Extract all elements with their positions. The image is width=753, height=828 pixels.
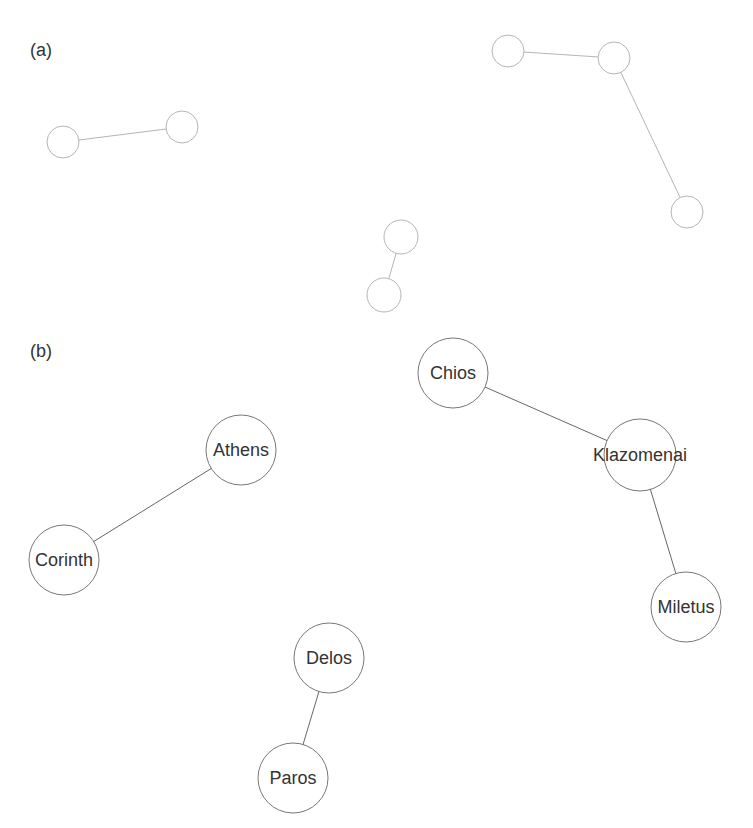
node-paros: Paros	[258, 743, 328, 813]
node-label: Corinth	[35, 550, 93, 570]
node-a4	[598, 42, 630, 74]
node-a7	[367, 278, 401, 312]
node-klazomenai: Klazomenai	[593, 419, 687, 491]
node-circle	[47, 126, 79, 158]
node-label: Chios	[430, 363, 476, 383]
edge-a1-a2	[63, 127, 182, 142]
panel-a-edges	[63, 51, 687, 295]
node-circle	[492, 35, 524, 67]
node-circle	[598, 42, 630, 74]
node-chios: Chios	[418, 338, 488, 408]
panel-a-graph	[47, 35, 703, 312]
node-label: Klazomenai	[593, 445, 687, 465]
node-delos: Delos	[294, 623, 364, 693]
edge-a4-a5	[614, 58, 687, 212]
node-circle	[671, 196, 703, 228]
node-corinth: Corinth	[29, 525, 99, 595]
panel-b-label: (b)	[30, 341, 52, 361]
node-label: Miletus	[657, 597, 714, 617]
node-label: Paros	[269, 768, 316, 788]
panel-b-nodes: AthensCorinthChiosKlazomenaiMiletusDelos…	[29, 338, 721, 813]
panel-b-graph: AthensCorinthChiosKlazomenaiMiletusDelos…	[29, 338, 721, 813]
node-athens: Athens	[206, 415, 276, 485]
node-miletus: Miletus	[651, 572, 721, 642]
node-a1	[47, 126, 79, 158]
node-a2	[166, 111, 198, 143]
node-a3	[492, 35, 524, 67]
node-circle	[367, 278, 401, 312]
node-a5	[671, 196, 703, 228]
panel-a-nodes	[47, 35, 703, 312]
node-label: Athens	[213, 440, 269, 460]
panel-b-edges	[64, 373, 686, 778]
node-a6	[384, 220, 418, 254]
node-circle	[384, 220, 418, 254]
node-circle	[166, 111, 198, 143]
network-diagram: (a) (b) AthensCorinthChiosKlazomenaiMile…	[0, 0, 753, 828]
panel-a-label: (a)	[30, 40, 52, 60]
node-label: Delos	[306, 648, 352, 668]
